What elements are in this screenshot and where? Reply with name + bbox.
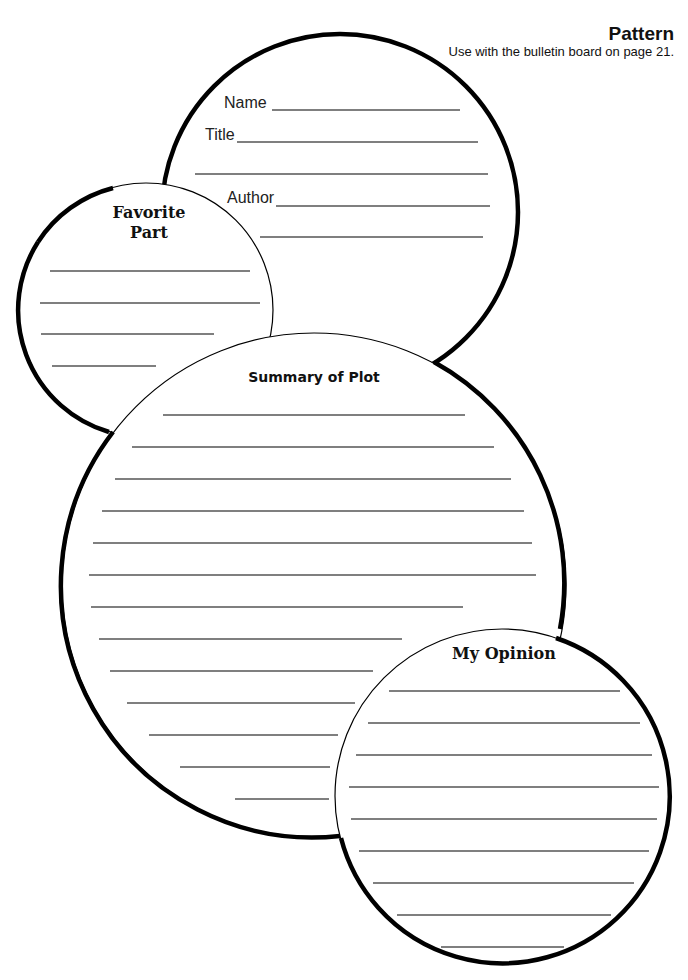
favorite-part-heading-line1: Favorite — [113, 203, 186, 222]
field-label-name: Name — [224, 94, 267, 111]
field-label-author: Author — [227, 189, 275, 206]
opinion-circle: My Opinion — [335, 629, 670, 963]
worksheet-diagram: NameTitleAuthor Favorite Part Summary of… — [0, 0, 688, 980]
field-label-title: Title — [205, 126, 235, 143]
summary-heading: Summary of Plot — [248, 369, 380, 385]
opinion-heading: My Opinion — [452, 644, 556, 663]
favorite-part-heading-line2: Part — [130, 223, 168, 242]
